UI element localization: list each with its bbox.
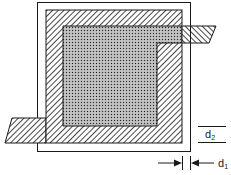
d1-left-arrowhead-icon	[174, 160, 182, 167]
d2-dimension: d2	[198, 127, 226, 143]
d1-dimension: d1	[158, 156, 228, 170]
d1-right-arrowhead-icon	[191, 160, 199, 167]
d2-label: d2	[205, 128, 215, 141]
diagram-canvas: d2 d1	[0, 0, 231, 175]
right-lead-tab	[182, 26, 216, 43]
d1-label: d1	[218, 157, 228, 170]
left-lead-tab	[5, 118, 46, 143]
